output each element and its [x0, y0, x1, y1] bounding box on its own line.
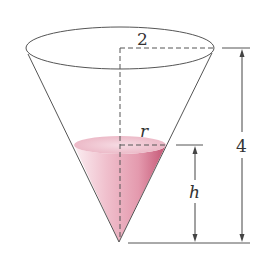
- total-height-label: 4: [236, 136, 247, 156]
- cone-diagram: 2 4 r h: [0, 0, 274, 266]
- water-radius-label: r: [140, 121, 149, 141]
- top-radius-label: 2: [137, 29, 148, 49]
- water-height-label: h: [189, 182, 200, 202]
